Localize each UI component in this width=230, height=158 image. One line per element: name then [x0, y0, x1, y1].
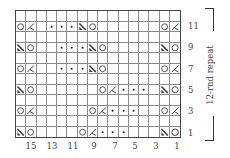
chart-cell — [47, 74, 57, 85]
chart-cell — [119, 95, 129, 106]
chart-cell — [78, 64, 88, 75]
chart-cell — [57, 74, 67, 85]
chart-cell — [88, 106, 98, 117]
chart-cell — [88, 11, 98, 22]
chart-cell — [139, 127, 149, 138]
chart-cell — [108, 11, 118, 22]
chart-cell — [16, 116, 26, 127]
chart-cell — [160, 32, 170, 43]
chart-cell — [78, 22, 88, 33]
chart-cell — [160, 85, 170, 96]
chart-cell — [149, 43, 159, 54]
chart-cell — [88, 53, 98, 64]
chart-cell — [37, 85, 47, 96]
chart-cell — [139, 32, 149, 43]
col-label-7: 7 — [109, 141, 121, 151]
chart-cell — [129, 106, 139, 117]
chart-cell — [47, 127, 57, 138]
chart-cell — [47, 32, 57, 43]
chart-cell — [37, 43, 47, 54]
chart-cell — [78, 106, 88, 117]
chart-cell — [88, 95, 98, 106]
chart-cell — [67, 74, 77, 85]
chart-cell — [149, 116, 159, 127]
repeat-bracket-top — [205, 8, 214, 31]
chart-cell — [98, 85, 108, 96]
col-label-11: 11 — [67, 141, 79, 151]
chart-cell — [98, 53, 108, 64]
chart-cell — [170, 95, 180, 106]
chart-cell — [88, 127, 98, 138]
chart-cell — [129, 85, 139, 96]
chart-cell — [16, 127, 26, 138]
chart-cell — [67, 85, 77, 96]
chart-cell — [47, 22, 57, 33]
chart-cell — [170, 106, 180, 117]
chart-cell — [67, 53, 77, 64]
chart-cell — [26, 32, 36, 43]
chart-cell — [170, 85, 180, 96]
chart-cell — [139, 11, 149, 22]
chart-cell — [170, 127, 180, 138]
chart-cell — [88, 43, 98, 54]
chart-cell — [108, 43, 118, 54]
chart-cell — [16, 95, 26, 106]
chart-cell — [108, 22, 118, 33]
chart-cell — [170, 32, 180, 43]
col-label-5: 5 — [129, 141, 141, 151]
chart-cell — [108, 64, 118, 75]
chart-cell — [98, 64, 108, 75]
chart-cell — [37, 53, 47, 64]
chart-cell — [119, 22, 129, 33]
chart-cell — [67, 22, 77, 33]
chart-cell — [16, 43, 26, 54]
chart-cell — [78, 85, 88, 96]
chart-cell — [108, 95, 118, 106]
chart-cell — [26, 53, 36, 64]
chart-cell — [57, 106, 67, 117]
chart-cell — [119, 32, 129, 43]
row-label-1: 1 — [188, 128, 193, 138]
chart-cell — [78, 95, 88, 106]
chart-cell — [57, 116, 67, 127]
chart-cell — [139, 43, 149, 54]
chart-cell — [129, 64, 139, 75]
chart-cell — [16, 64, 26, 75]
chart-cell — [139, 85, 149, 96]
row-label-5: 5 — [188, 85, 193, 95]
row-label-11: 11 — [188, 21, 199, 31]
chart-cell — [170, 116, 180, 127]
chart-cell — [149, 32, 159, 43]
chart-cell — [37, 74, 47, 85]
chart-cell — [139, 74, 149, 85]
chart-cell — [88, 85, 98, 96]
chart-cell — [67, 127, 77, 138]
chart-cell — [98, 127, 108, 138]
chart-cell — [108, 106, 118, 117]
chart-cell — [47, 64, 57, 75]
chart-cell — [139, 22, 149, 33]
chart-cell — [129, 53, 139, 64]
chart-cell — [88, 116, 98, 127]
chart-cell — [98, 22, 108, 33]
chart-cell — [119, 43, 129, 54]
chart-cell — [149, 53, 159, 64]
chart-cell — [160, 43, 170, 54]
chart-cell — [47, 11, 57, 22]
chart-cell — [129, 22, 139, 33]
chart-cell — [160, 64, 170, 75]
chart-cell — [129, 43, 139, 54]
chart-cell — [88, 74, 98, 85]
chart-cell — [47, 53, 57, 64]
chart-cell — [57, 95, 67, 106]
chart-cell — [129, 74, 139, 85]
chart-cell — [16, 74, 26, 85]
chart-cell — [47, 43, 57, 54]
knitting-chart-grid — [15, 10, 181, 138]
chart-cell — [129, 32, 139, 43]
chart-cell — [98, 106, 108, 117]
chart-cell — [98, 11, 108, 22]
chart-cell — [26, 95, 36, 106]
chart-cell — [37, 116, 47, 127]
chart-cell — [67, 43, 77, 54]
